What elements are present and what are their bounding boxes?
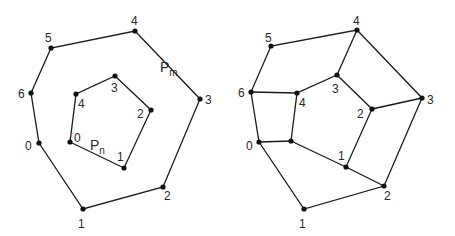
connect-edge-inner4-outer6 <box>251 92 297 93</box>
left-inner-vertex-4 <box>73 91 78 96</box>
right-outer-vertex-label-5: 5 <box>265 31 272 45</box>
left-vertex-labels: 012345601234 <box>18 14 212 231</box>
right-outer-vertex-3 <box>419 95 424 100</box>
left-inner-vertex-label-3: 3 <box>111 81 118 95</box>
right-outer-vertex-4 <box>354 27 359 32</box>
connect-edge-inner3-outer4 <box>337 30 357 75</box>
left-outer-vertex-label-6: 6 <box>18 87 25 101</box>
right-inner-vertex-1 <box>343 164 348 169</box>
left-inner-vertex-2 <box>148 107 153 112</box>
right-inner-vertex-label-3: 3 <box>332 82 339 96</box>
left-vertices <box>28 28 202 211</box>
right-outer-vertex-label-1: 1 <box>299 217 306 231</box>
left-inner-vertex-label-4: 4 <box>78 97 85 111</box>
right-outer-vertex-label-0: 0 <box>246 139 253 153</box>
connect-edge-inner2-outer3 <box>372 98 422 109</box>
right-inner-vertex-3 <box>334 72 339 77</box>
right-inner-vertex-0 <box>288 138 293 143</box>
left-outer-vertex-label-1: 1 <box>78 217 85 231</box>
left-outer-vertex-label-5: 5 <box>45 31 52 45</box>
left-outer-vertex-4 <box>132 28 137 33</box>
right-outer-vertex-1 <box>301 206 306 211</box>
right-inner-vertex-2 <box>369 106 374 111</box>
right-inner-vertex-label-1: 1 <box>338 149 345 163</box>
pm-polygon-label: Pm <box>160 59 178 78</box>
right-outer-vertex-6 <box>248 89 253 94</box>
right-vertex-labels: 01234561234 <box>238 14 434 231</box>
left-outer-vertex-5 <box>48 45 53 50</box>
left-outer-vertex-3 <box>197 96 202 101</box>
right-figure-connected-polygons: 01234561234 <box>238 14 434 231</box>
left-inner-vertex-3 <box>112 73 117 78</box>
left-outer-vertex-label-4: 4 <box>131 14 138 28</box>
left-outer-vertex-label-2: 2 <box>164 189 171 203</box>
right-outer-vertex-label-2: 2 <box>384 189 391 203</box>
connect-edge-inner0-outer0 <box>259 141 291 142</box>
right-outer-vertex-label-6: 6 <box>238 86 245 100</box>
right-outer-vertex-label-4: 4 <box>353 14 360 28</box>
right-outer-vertex-0 <box>256 139 261 144</box>
left-outer-vertex-label-3: 3 <box>205 93 212 107</box>
right-inner-vertex-label-4: 4 <box>299 96 306 110</box>
left-inner-vertex-label-0: 0 <box>74 131 81 145</box>
polygon-nesting-diagram: 012345601234 Pm Pn 01234561234 <box>0 0 455 236</box>
left-outer-vertex-6 <box>28 90 33 95</box>
left-outer-vertex-0 <box>36 140 41 145</box>
left-outer-vertex-label-0: 0 <box>25 139 32 153</box>
connect-edge-inner1-outer2 <box>346 167 384 186</box>
left-inner-vertex-0 <box>67 139 72 144</box>
right-vertices <box>248 27 424 211</box>
left-inner-vertex-label-1: 1 <box>117 150 124 164</box>
outer-heptagon-pm <box>31 31 200 209</box>
right-inner-vertex-label-2: 2 <box>357 107 364 121</box>
left-outer-vertex-1 <box>80 206 85 211</box>
outer-heptagon <box>251 30 422 209</box>
right-inner-vertex-4 <box>294 90 299 95</box>
right-outer-vertex-2 <box>381 183 386 188</box>
left-inner-vertex-1 <box>121 165 126 170</box>
left-inner-vertex-label-2: 2 <box>137 107 144 121</box>
left-figure-nested-polygons: 012345601234 Pm Pn <box>18 14 212 231</box>
right-outer-vertex-label-3: 3 <box>427 93 434 107</box>
